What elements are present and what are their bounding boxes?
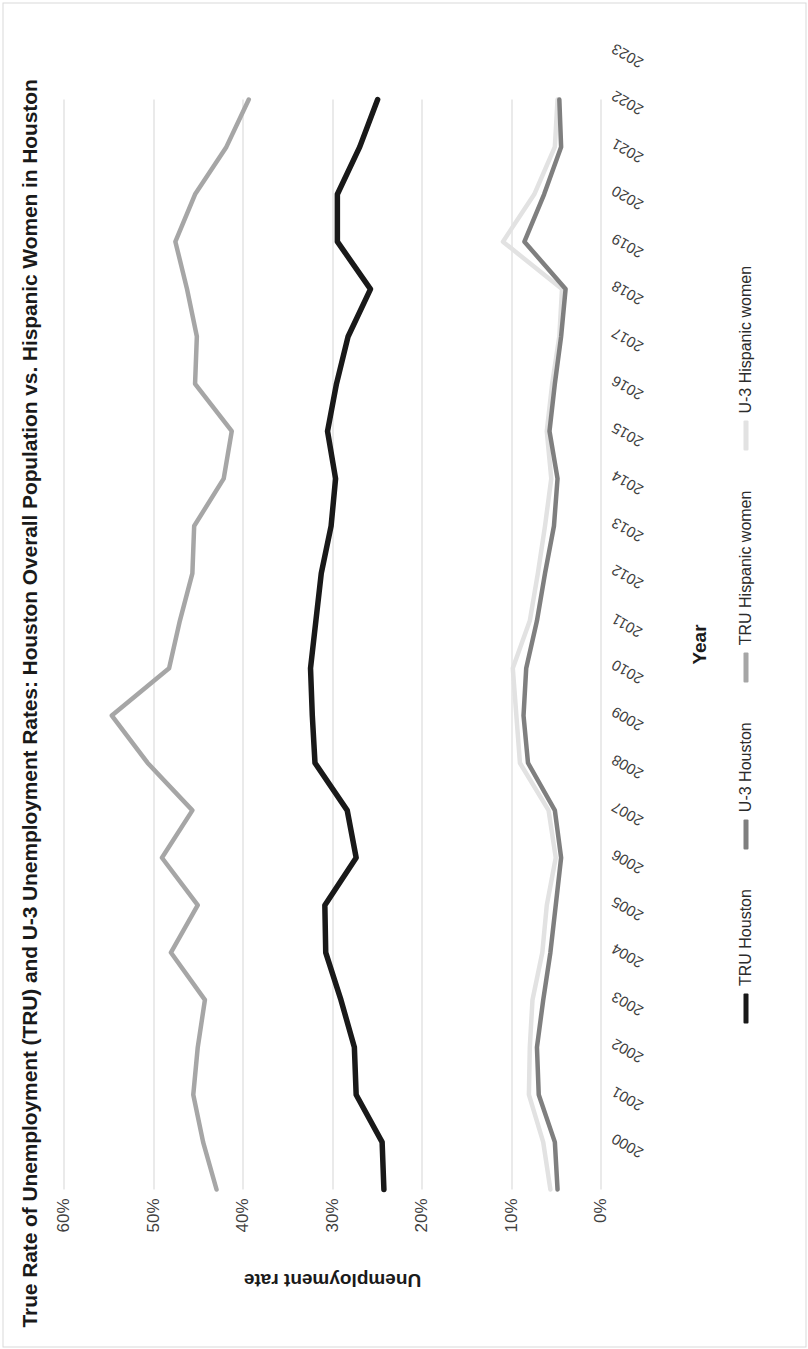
legend-swatch — [743, 652, 748, 682]
legend-swatch — [743, 993, 748, 1023]
y-tick-label: 10% — [501, 1198, 521, 1232]
series-line — [111, 99, 248, 1189]
chart-title: True Rate of Unemployment (TRU) and U-3 … — [16, 27, 41, 1327]
chart-legend: TRU HoustonU-3 HoustonTRU Hispanic women… — [736, 99, 754, 1189]
legend-label: U-3 Houston — [736, 722, 754, 812]
legend-item[interactable]: U-3 Hispanic women — [736, 265, 754, 450]
legend-swatch — [743, 420, 748, 450]
x-axis-title: Year — [688, 99, 710, 1189]
y-axis-title-label: Unemployment rate — [243, 1268, 420, 1290]
legend-label: TRU Hispanic women — [736, 490, 754, 645]
series-line — [310, 99, 383, 1189]
y-axis-title: Unemployment rate — [63, 1267, 600, 1291]
y-tick-label: 60% — [53, 1198, 73, 1232]
y-tick-label: 40% — [232, 1198, 252, 1232]
chart-figure: True Rate of Unemployment (TRU) and U-3 … — [0, 0, 808, 1349]
legend-swatch — [743, 819, 748, 849]
y-tick-label: 30% — [322, 1198, 342, 1232]
y-tick-label: 0% — [590, 1198, 610, 1223]
legend-item[interactable]: U-3 Houston — [736, 722, 754, 849]
series-lines — [63, 99, 600, 1189]
legend-item[interactable]: TRU Houston — [736, 889, 754, 1023]
legend-label: TRU Houston — [736, 889, 754, 986]
plot-area: 0%10%20%30%40%50%60% 2000200120022003200… — [63, 99, 600, 1189]
y-tick-label: 20% — [411, 1198, 431, 1232]
y-tick-label: 50% — [143, 1198, 163, 1232]
rotated-figure-wrapper: True Rate of Unemployment (TRU) and U-3 … — [0, 0, 808, 1349]
legend-item[interactable]: TRU Hispanic women — [736, 490, 754, 682]
legend-label: U-3 Hispanic women — [736, 265, 754, 413]
